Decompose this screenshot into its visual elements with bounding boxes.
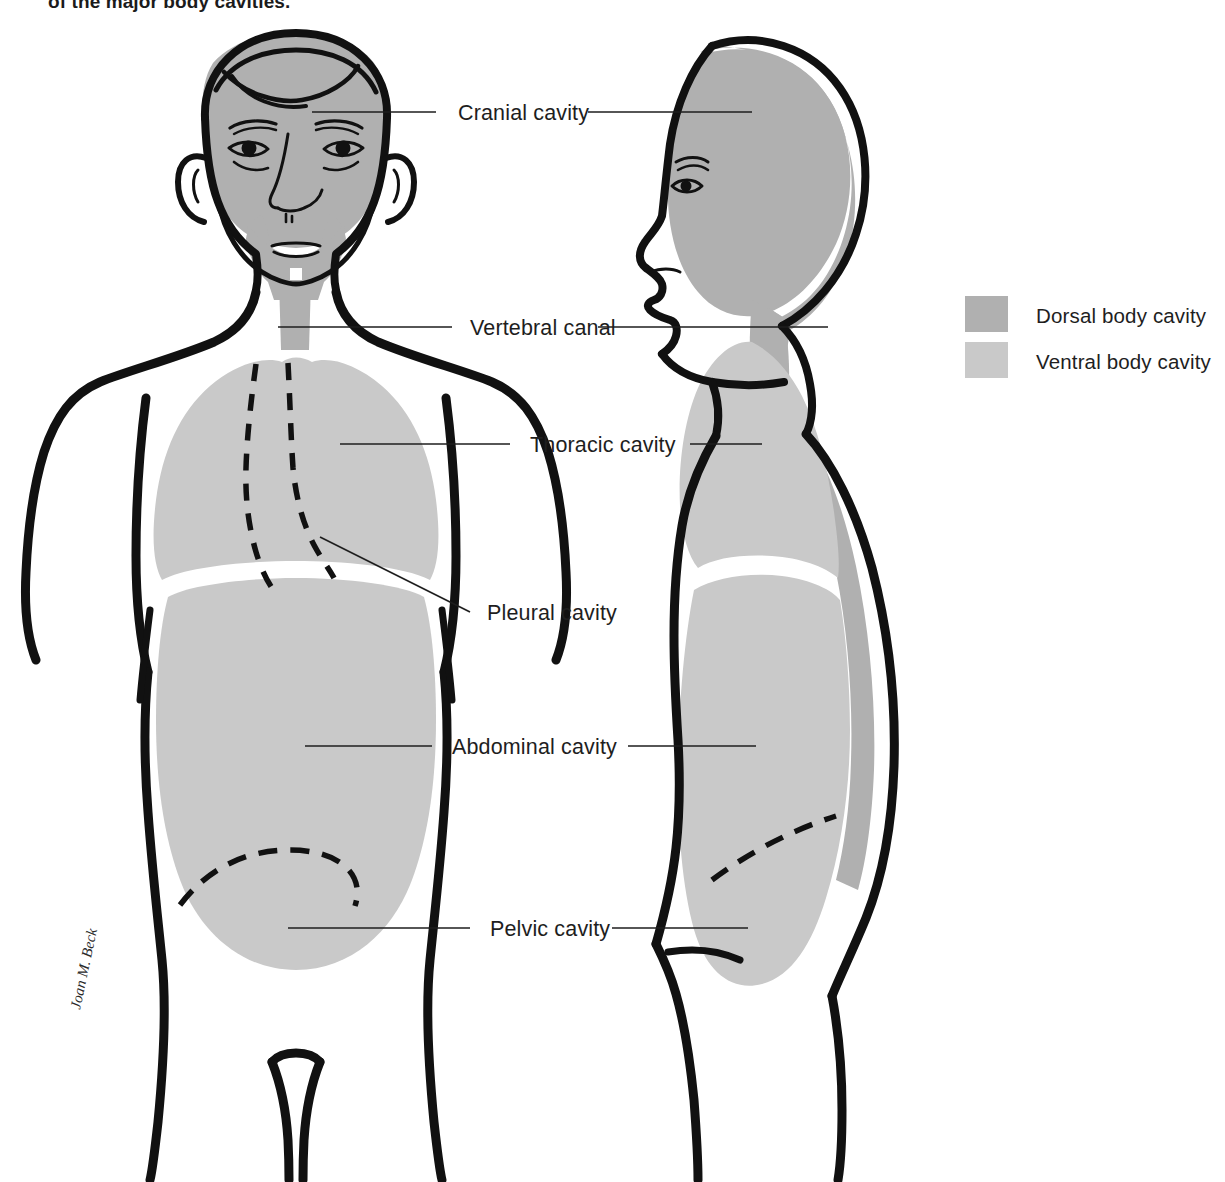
- label-vertebral-canal: Vertebral canal: [470, 316, 616, 340]
- label-abdominal-cavity: Abdominal cavity: [452, 735, 617, 759]
- svg-text:Joan M. Beck: Joan M. Beck: [67, 927, 100, 1011]
- left-eye-pupil: [242, 141, 257, 156]
- artist-signature: Joan M. Beck: [67, 927, 100, 1011]
- cranial-cavity-region: [202, 31, 390, 248]
- cavity-legend: Dorsal body cavity Ventral body cavity: [965, 296, 1212, 378]
- body-cavities-diagram: Cranial cavity Vertebral canal Thoracic …: [0, 0, 1225, 1182]
- anterior-view: [25, 31, 566, 1180]
- lateral-ventral-cavity-fill: [678, 342, 850, 986]
- body-cavities-figure: of the major body cavities.: [0, 0, 1225, 1182]
- label-pleural-cavity: Pleural cavity: [487, 601, 617, 625]
- legend-swatch-dorsal: [965, 296, 1008, 332]
- legend-label-dorsal: Dorsal body cavity: [1036, 304, 1207, 327]
- anterior-ventral-cavity-fill: [154, 358, 439, 971]
- abdominopelvic-cavity-region: [156, 578, 436, 970]
- label-pelvic-cavity: Pelvic cavity: [490, 917, 610, 941]
- label-thoracic-cavity: Thoracic cavity: [530, 433, 676, 457]
- vertebral-canal-region: [279, 280, 311, 350]
- thoracic-cavity-region: [154, 358, 439, 581]
- right-eye-pupil: [336, 141, 351, 156]
- legend-label-ventral: Ventral body cavity: [1036, 350, 1212, 373]
- lateral-eye-pupil: [681, 181, 692, 192]
- label-cranial-cavity: Cranial cavity: [458, 101, 589, 125]
- lateral-abdominopelvic-cavity-region: [678, 575, 850, 986]
- lateral-view: [640, 40, 894, 1180]
- legend-swatch-ventral: [965, 342, 1008, 378]
